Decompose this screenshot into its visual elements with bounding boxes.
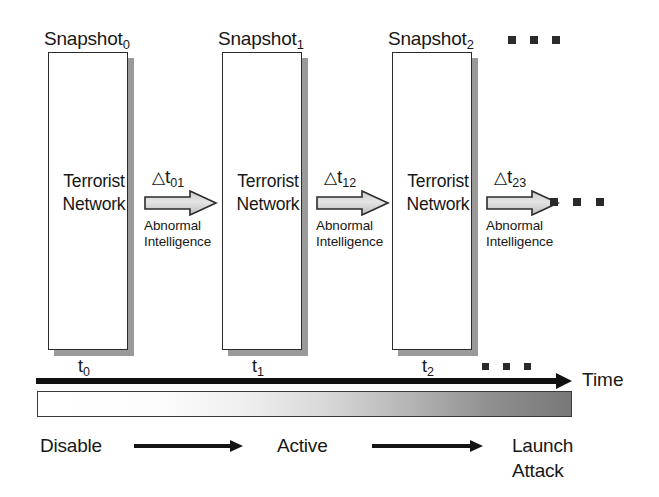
transition-2: △t23 Abnormal Intelligence bbox=[486, 166, 562, 246]
delta-triangle-icon: △ bbox=[152, 168, 165, 187]
ellipsis-dot bbox=[573, 198, 581, 206]
delta-subscript: 12 bbox=[342, 176, 356, 190]
stage-label-launch: Launch bbox=[512, 434, 573, 457]
tick-subscript: 0 bbox=[83, 365, 90, 379]
snapshot-label-line2: Network bbox=[407, 194, 470, 214]
snapshot-group-2: Snapshot2 Terrorist Network bbox=[392, 28, 484, 358]
caption-text: Abnormal bbox=[316, 218, 373, 233]
ellipsis-dot bbox=[508, 36, 516, 44]
snapshot-body-label-1b: Network bbox=[222, 193, 314, 216]
stage-label-attack: Attack bbox=[512, 459, 564, 482]
snapshot-label-line1: Terrorist bbox=[63, 171, 124, 191]
threat-level-gradient-bar bbox=[37, 391, 572, 417]
ellipsis-dot bbox=[550, 198, 558, 206]
ellipsis-top-right bbox=[508, 36, 560, 44]
snapshot-title-subscript: 0 bbox=[123, 37, 130, 52]
snapshot-body-label-2: Terrorist bbox=[392, 170, 484, 193]
stage-text: Launch bbox=[512, 435, 573, 456]
stage-label-disable: Disable bbox=[40, 434, 102, 457]
caption-text: Intelligence bbox=[486, 234, 553, 249]
caption-text: Abnormal bbox=[144, 218, 201, 233]
snapshot-title-subscript: 1 bbox=[297, 37, 304, 52]
caption-text: Intelligence bbox=[144, 234, 211, 249]
stage-text: Disable bbox=[40, 435, 102, 456]
snapshot-label-line2: Network bbox=[237, 194, 300, 214]
snapshot-label-line2: Network bbox=[63, 194, 126, 214]
snapshot-title-text: Snapshot bbox=[388, 28, 467, 49]
snapshot-body-label-1: Terrorist bbox=[222, 170, 314, 193]
transition-block-arrow-icon-1 bbox=[316, 190, 390, 216]
snapshot-body-label-2b: Network bbox=[392, 193, 484, 216]
delta-triangle-icon: △ bbox=[494, 168, 507, 187]
snapshot-title-subscript: 2 bbox=[467, 37, 474, 52]
snapshot-body-label-0: Terrorist bbox=[48, 170, 140, 193]
snapshot-title-text: Snapshot bbox=[44, 28, 123, 49]
stage-arrow-1-line bbox=[134, 444, 232, 448]
transition-caption-0-line2: Intelligence bbox=[144, 234, 211, 250]
transition-caption-1-line1: Abnormal bbox=[316, 218, 373, 234]
ellipsis-dot bbox=[482, 363, 489, 370]
transition-block-arrow-icon-2 bbox=[486, 190, 560, 216]
snapshot-title-text: Snapshot bbox=[218, 28, 297, 49]
ellipsis-middle-right bbox=[550, 198, 604, 206]
ellipsis-axis bbox=[482, 363, 531, 370]
stage-arrow-2-head-icon bbox=[470, 440, 483, 452]
transition-caption-2-line1: Abnormal bbox=[486, 218, 543, 234]
caption-text: Abnormal bbox=[486, 218, 543, 233]
ellipsis-dot bbox=[503, 363, 510, 370]
tick-subscript: 2 bbox=[427, 365, 434, 379]
tick-subscript: 1 bbox=[257, 365, 264, 379]
delta-triangle-icon: △ bbox=[324, 168, 337, 187]
stage-arrow-2-line bbox=[372, 444, 472, 448]
ellipsis-dot bbox=[596, 198, 604, 206]
delta-subscript: 23 bbox=[512, 176, 526, 190]
transition-1: △t12 Abnormal Intelligence bbox=[316, 166, 392, 246]
diagram-canvas: Snapshot0 Terrorist Network Snapshot1 Te… bbox=[0, 0, 659, 497]
snapshot-group-1: Snapshot1 Terrorist Network bbox=[222, 28, 314, 358]
ellipsis-dot bbox=[530, 36, 538, 44]
stage-text: Attack bbox=[512, 460, 564, 481]
delta-subscript: 01 bbox=[170, 176, 184, 190]
ellipsis-dot bbox=[524, 363, 531, 370]
ellipsis-dot bbox=[552, 36, 560, 44]
stage-text: Active bbox=[277, 435, 328, 456]
snapshot-body-label-0b: Network bbox=[48, 193, 140, 216]
transition-block-arrow-icon-0 bbox=[144, 190, 218, 216]
snapshot-label-line1: Terrorist bbox=[237, 171, 298, 191]
snapshot-label-line1: Terrorist bbox=[407, 171, 468, 191]
stage-arrow-1-head-icon bbox=[230, 440, 243, 452]
transition-caption-1-line2: Intelligence bbox=[316, 234, 383, 250]
axis-caption-text: Time bbox=[582, 369, 624, 390]
transition-0: △t01 Abnormal Intelligence bbox=[144, 166, 220, 246]
time-axis-line bbox=[36, 378, 558, 384]
caption-text: Intelligence bbox=[316, 234, 383, 249]
time-axis-caption: Time bbox=[582, 369, 624, 391]
transition-caption-2-line2: Intelligence bbox=[486, 234, 553, 250]
transition-caption-0-line1: Abnormal bbox=[144, 218, 201, 234]
time-axis-arrowhead-icon bbox=[556, 373, 572, 389]
stage-label-active: Active bbox=[277, 434, 328, 457]
snapshot-group-0: Snapshot0 Terrorist Network bbox=[48, 28, 140, 358]
